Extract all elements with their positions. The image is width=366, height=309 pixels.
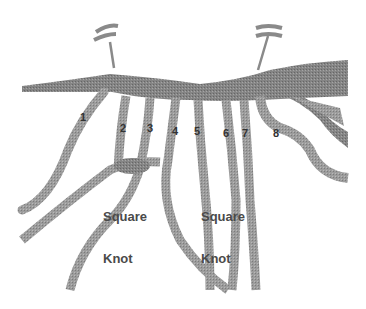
- square-knot-label-left: Square Knot: [103, 182, 147, 294]
- cord-label-4: 4: [172, 126, 178, 137]
- cord-label-6: 6: [223, 128, 229, 139]
- cord-label-2: 2: [120, 123, 126, 134]
- knot-label-line2: Knot: [103, 252, 147, 266]
- right-pin-icon: [256, 26, 282, 70]
- cord-label-7: 7: [242, 128, 248, 139]
- holding-cord: [22, 60, 348, 101]
- cord-label-5: 5: [194, 126, 200, 137]
- cord-label-8: 8: [273, 128, 279, 139]
- left-pin-icon: [94, 26, 118, 68]
- macrame-diagram: 1 2 3 4 5 6 7 8 Square Knot Square Knot: [0, 0, 366, 309]
- knot-label-line2: Knot: [201, 252, 245, 266]
- cord-label-3: 3: [147, 123, 153, 134]
- knot-label-line1: Square: [103, 210, 147, 224]
- cord-illustration: [0, 0, 366, 309]
- knot-label-line1: Square: [201, 210, 245, 224]
- cord-label-1: 1: [80, 112, 86, 123]
- square-knot-left: [114, 158, 150, 174]
- square-knot-label-right: Square Knot: [201, 182, 245, 294]
